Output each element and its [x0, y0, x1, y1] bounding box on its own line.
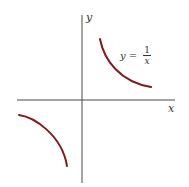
x-axis-label: x	[168, 103, 174, 114]
equation-fraction: 1 x	[143, 45, 151, 66]
equation-equals: =	[129, 50, 137, 61]
y-axis-label: y	[86, 12, 92, 23]
curve-branch-negative	[19, 115, 67, 166]
fraction-numerator: 1	[144, 45, 150, 55]
fraction-denominator: x	[145, 56, 150, 66]
hyperbola-graph	[0, 0, 189, 187]
equation-label: y = 1 x	[120, 45, 151, 66]
equation-lhs: y	[120, 50, 126, 61]
